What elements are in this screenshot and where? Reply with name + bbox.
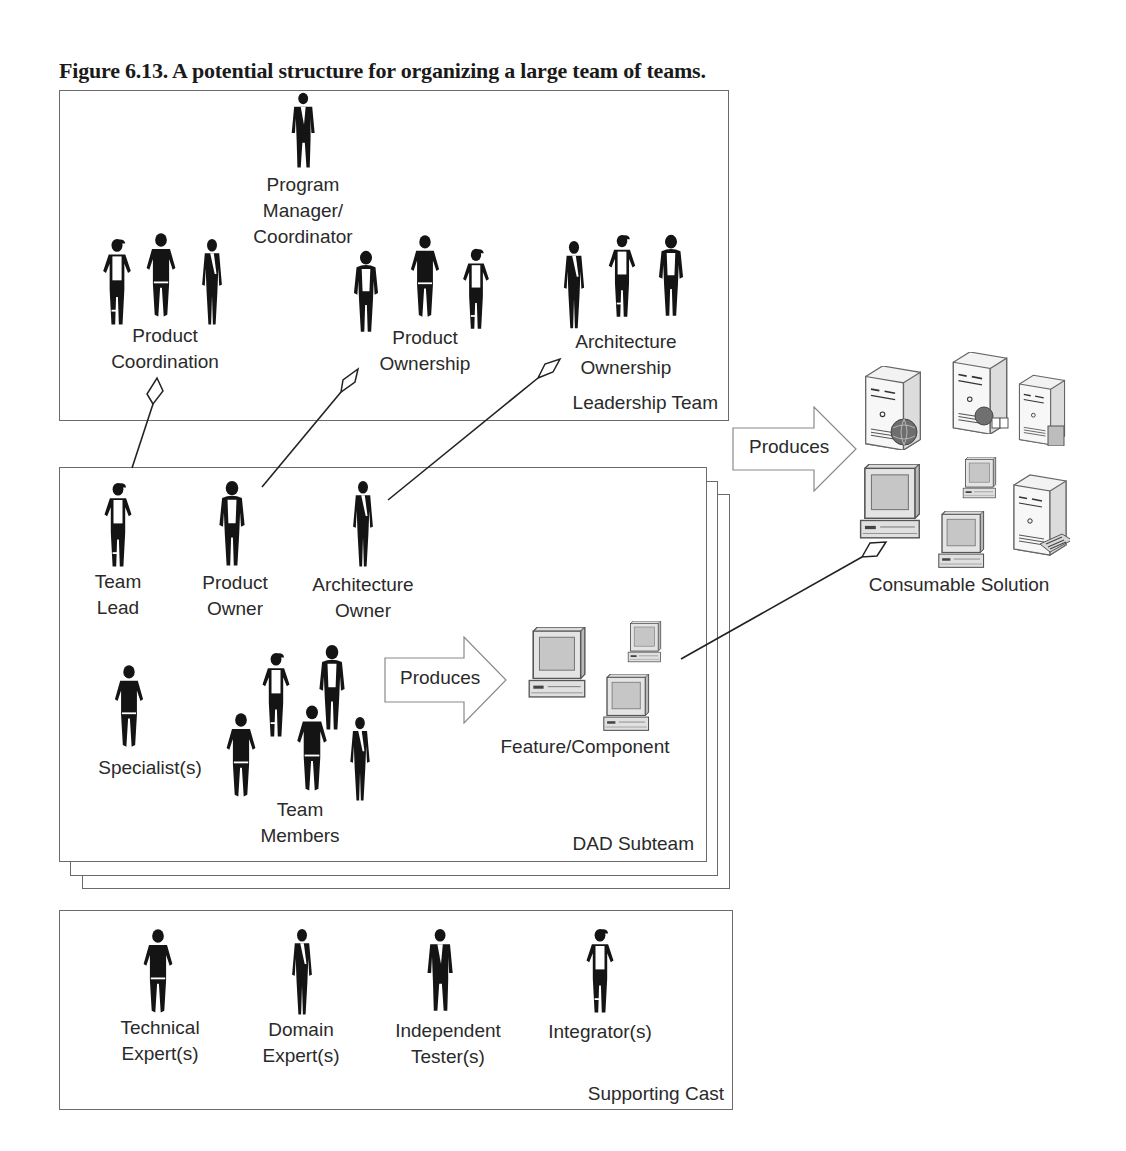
team-lead-figure-icon (96, 482, 140, 572)
specialist-figure-icon (108, 664, 150, 752)
produces-solution-label: Produces (749, 436, 829, 458)
domain-expert-figure-icon (284, 928, 320, 1018)
produces-label: Produces (400, 667, 480, 689)
technical-experts-label: Technical Expert(s) (105, 1015, 215, 1067)
independent-testers-label: Independent Tester(s) (380, 1018, 516, 1070)
product-coordination-label: Product Coordination (95, 323, 235, 375)
consumable-solution-label: Consumable Solution (846, 572, 1072, 598)
file-server-icon (1016, 374, 1068, 446)
team-member-4-icon (292, 704, 332, 796)
integrator-figure-icon (578, 928, 622, 1018)
specialists-label: Specialist(s) (70, 755, 230, 781)
supporting-cast-title: Supporting Cast (588, 1083, 724, 1105)
solution-computer-small-icon (960, 457, 1000, 499)
product-ownership-label: Product Ownership (355, 325, 495, 377)
team-member-5-icon (342, 716, 378, 804)
independent-tester-figure-icon (420, 928, 462, 1018)
leadership-team-title: Leadership Team (573, 392, 718, 414)
architecture-owner-label: Architecture Owner (298, 572, 428, 624)
product-coordination-person-2-icon (140, 232, 182, 322)
team-member-3-icon (222, 712, 260, 802)
domain-experts-label: Domain Expert(s) (246, 1017, 356, 1069)
feature-component-label: Feature/Component (480, 734, 690, 760)
product-coordination-person-1-icon (96, 238, 138, 330)
feature-computer-small-icon (624, 621, 666, 663)
solution-computer-medium-icon (934, 511, 990, 569)
team-lead-label: Team Lead (78, 569, 158, 621)
architecture-ownership-label: Architecture Ownership (556, 329, 696, 381)
architecture-ownership-person-3-icon (648, 234, 694, 320)
feature-computer-large-icon (526, 627, 590, 699)
app-server-icon (948, 352, 1012, 434)
web-server-icon (860, 366, 926, 450)
dad-subteam-title: DAD Subteam (573, 833, 694, 855)
solution-computer-large-icon (858, 464, 924, 540)
dad-subteam-box: DAD Subteam (59, 467, 707, 862)
technical-expert-figure-icon (134, 928, 182, 1018)
architecture-ownership-person-1-icon (554, 240, 594, 332)
program-manager-label: Program Manager/ Coordinator (243, 172, 363, 250)
product-ownership-person-2-icon (404, 234, 446, 322)
feature-computer-medium-icon (600, 674, 654, 732)
product-owner-label: Product Owner (190, 570, 280, 622)
product-ownership-person-3-icon (454, 248, 498, 334)
program-manager-figure-icon (283, 92, 325, 174)
product-coordination-person-3-icon (192, 238, 232, 328)
figure-caption: Figure 6.13. A potential structure for o… (59, 58, 706, 84)
integrators-label: Integrator(s) (535, 1019, 665, 1045)
product-owner-figure-icon (212, 480, 252, 570)
architecture-owner-figure-icon (344, 480, 382, 570)
architecture-ownership-person-2-icon (600, 234, 644, 322)
product-ownership-person-1-icon (346, 250, 386, 336)
database-server-icon (1010, 474, 1070, 556)
team-members-label: Team Members (240, 797, 360, 849)
